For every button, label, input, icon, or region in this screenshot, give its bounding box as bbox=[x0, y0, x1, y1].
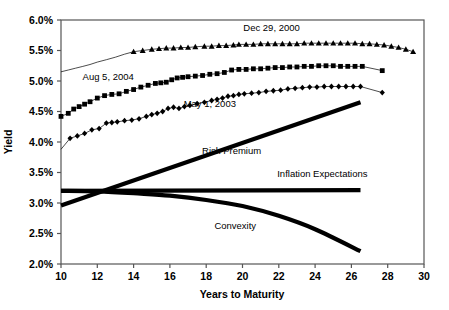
marker-square bbox=[244, 67, 249, 72]
marker-square bbox=[236, 67, 241, 72]
marker-diamond bbox=[104, 120, 109, 126]
marker-square bbox=[345, 64, 350, 69]
x-tick-label: 24 bbox=[309, 270, 321, 282]
series-label-dec-29-2000: Dec 29, 2000 bbox=[243, 22, 300, 33]
marker-square bbox=[215, 71, 220, 76]
marker-square bbox=[302, 64, 307, 69]
y-tick-label: 2.0% bbox=[29, 258, 54, 270]
marker-diamond bbox=[343, 84, 348, 90]
inline-annotations: Dec 29, 2000Aug 5, 2004May 1, 2003Risk P… bbox=[83, 22, 368, 231]
y-tick-label: 4.5% bbox=[29, 105, 54, 117]
x-tick-label: 20 bbox=[237, 270, 249, 282]
marker-diamond bbox=[307, 84, 312, 90]
marker-diamond bbox=[278, 87, 283, 93]
marker-diamond bbox=[380, 90, 385, 96]
curve-convexity bbox=[61, 191, 361, 251]
x-tick-label: 18 bbox=[200, 270, 212, 282]
marker-diamond bbox=[271, 88, 276, 94]
y-tick-label: 6.0% bbox=[29, 14, 54, 26]
marker-square bbox=[164, 80, 169, 85]
yield-curve-chart: 2.0%2.5%3.0%3.5%4.0%4.5%5.0%5.5%6.0% 101… bbox=[0, 0, 449, 310]
marker-diamond bbox=[115, 119, 120, 125]
marker-diamond bbox=[89, 127, 94, 133]
marker-square bbox=[316, 63, 321, 68]
x-tick-label: 10 bbox=[55, 270, 67, 282]
marker-square bbox=[287, 65, 292, 70]
curve-label-inflation-expectations: Inflation Expectations bbox=[277, 168, 368, 179]
marker-square bbox=[229, 68, 234, 73]
marker-square bbox=[266, 66, 271, 71]
chart-canvas: 2.0%2.5%3.0%3.5%4.0%4.5%5.0%5.5%6.0% 101… bbox=[0, 0, 449, 310]
marker-square bbox=[71, 107, 76, 112]
marker-diamond bbox=[75, 133, 80, 139]
x-tick-label: 22 bbox=[273, 270, 285, 282]
y-tick-label: 3.5% bbox=[29, 166, 54, 178]
marker-diamond bbox=[242, 91, 247, 97]
marker-diamond bbox=[109, 120, 114, 126]
marker-square bbox=[280, 65, 285, 70]
marker-triangle bbox=[410, 49, 416, 54]
marker-square bbox=[66, 111, 71, 116]
marker-square bbox=[59, 114, 64, 119]
marker-square bbox=[251, 66, 256, 71]
marker-diamond bbox=[314, 84, 319, 90]
x-tick-label: 28 bbox=[382, 270, 394, 282]
marker-diamond bbox=[176, 106, 181, 112]
y-tick-label: 5.5% bbox=[29, 44, 54, 56]
y-axis-ticks: 2.0%2.5%3.0%3.5%4.0%4.5%5.0%5.5%6.0% bbox=[29, 14, 61, 270]
marker-square bbox=[324, 63, 329, 68]
marker-square bbox=[131, 87, 136, 92]
x-tick-label: 12 bbox=[91, 270, 103, 282]
x-axis-title: Years to Maturity bbox=[200, 288, 285, 300]
marker-square bbox=[186, 74, 191, 79]
marker-diamond bbox=[336, 84, 341, 90]
marker-diamond bbox=[236, 92, 241, 98]
marker-diamond bbox=[97, 126, 102, 132]
marker-diamond bbox=[300, 85, 305, 91]
marker-diamond bbox=[82, 131, 87, 137]
marker-square bbox=[102, 93, 107, 98]
marker-diamond bbox=[249, 90, 254, 96]
series-label-aug-5-2004: Aug 5, 2004 bbox=[83, 71, 134, 82]
yield-curve-series bbox=[59, 40, 417, 149]
marker-square bbox=[207, 72, 212, 77]
y-axis-title: Yield bbox=[2, 130, 14, 155]
marker-square bbox=[88, 99, 93, 104]
marker-diamond bbox=[122, 118, 127, 124]
marker-square bbox=[258, 66, 263, 71]
marker-diamond bbox=[263, 88, 268, 94]
marker-diamond bbox=[322, 84, 327, 90]
x-tick-label: 26 bbox=[346, 270, 358, 282]
marker-square bbox=[146, 83, 151, 88]
marker-square bbox=[222, 70, 227, 75]
marker-diamond bbox=[329, 84, 334, 90]
marker-square bbox=[82, 102, 87, 107]
marker-diamond bbox=[144, 113, 149, 119]
marker-square bbox=[77, 104, 82, 109]
marker-diamond bbox=[285, 86, 290, 92]
marker-square bbox=[175, 76, 180, 81]
y-tick-label: 5.0% bbox=[29, 75, 54, 87]
marker-square bbox=[309, 64, 314, 69]
marker-square bbox=[380, 68, 385, 73]
marker-square bbox=[273, 65, 278, 70]
marker-square bbox=[138, 85, 143, 90]
curve-label-risk-premium: Risk Premium bbox=[202, 145, 261, 156]
marker-square bbox=[200, 73, 205, 78]
marker-diamond bbox=[129, 117, 134, 123]
marker-square bbox=[158, 80, 163, 85]
marker-diamond bbox=[149, 112, 154, 118]
x-tick-label: 14 bbox=[128, 270, 140, 282]
marker-square bbox=[360, 64, 365, 69]
marker-diamond bbox=[155, 110, 160, 116]
marker-diamond bbox=[358, 84, 363, 90]
marker-square bbox=[169, 77, 174, 82]
marker-square bbox=[180, 75, 185, 80]
marker-square bbox=[124, 89, 129, 94]
marker-square bbox=[153, 81, 158, 86]
marker-diamond bbox=[165, 106, 170, 112]
x-axis-ticks: 1012141618202224262830 bbox=[55, 264, 430, 282]
marker-square bbox=[193, 74, 198, 79]
y-tick-label: 3.0% bbox=[29, 197, 54, 209]
marker-diamond bbox=[256, 90, 261, 96]
